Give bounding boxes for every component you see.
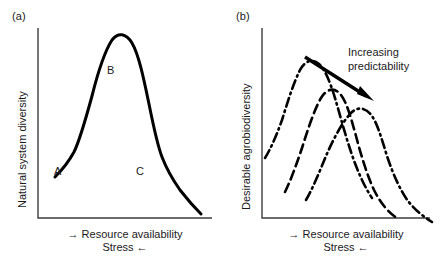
- panel-b-x-axis-label: → Resource availability Stress ←: [262, 228, 430, 254]
- increasing-predictability-line2: predictability: [348, 59, 409, 73]
- panel-a-y-axis-label: Natural system diversity: [16, 91, 28, 208]
- increasing-predictability-annotation: Increasing predictability: [348, 45, 409, 73]
- panel-b-curve-2: [285, 90, 397, 218]
- panel-b-x-axis-label-line2: Stress ←: [262, 241, 430, 254]
- panel-a-point-label-a: A: [54, 165, 61, 177]
- panel-b-label: (b): [236, 10, 250, 22]
- panel-b-x-axis-label-line1: → Resource availability: [262, 228, 430, 241]
- panel-a-point-label-c: C: [136, 165, 144, 177]
- panel-b-curve-3: [306, 109, 432, 222]
- panel-a-diversity-curve: [55, 35, 201, 214]
- panel-a-point-label-b: B: [107, 64, 114, 76]
- panel-a-x-axis-label-line1: → Resource availability: [38, 228, 212, 241]
- panel-b: (b) Desirable agrobiodiversity Increasin…: [224, 0, 448, 257]
- figure-container: (a) Natural system diversity A B C → Res…: [0, 0, 448, 257]
- panel-a-label: (a): [12, 10, 26, 22]
- panel-a-axes: [38, 28, 212, 218]
- panel-b-plot: [224, 0, 448, 257]
- panel-a-x-axis-label: → Resource availability Stress ←: [38, 228, 212, 254]
- panel-a-x-axis-label-line2: Stress ←: [38, 241, 212, 254]
- increasing-predictability-line1: Increasing: [348, 45, 409, 59]
- panel-a-plot: [0, 0, 224, 257]
- panel-a: (a) Natural system diversity A B C → Res…: [0, 0, 224, 257]
- panel-b-curve-1: [265, 61, 372, 198]
- panel-b-y-axis-label: Desirable agrobiodiversity: [240, 83, 252, 210]
